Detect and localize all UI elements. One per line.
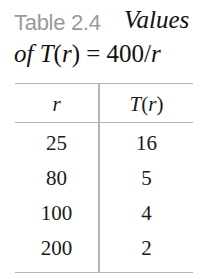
caption-var: r (151, 40, 161, 67)
table-cell-r: 100 (15, 201, 98, 226)
table-cell-r: 80 (15, 166, 98, 191)
caption-paren-close: ) (72, 40, 80, 67)
caption-func: T (40, 40, 54, 67)
table-cell-T: 16 (100, 131, 193, 156)
table-number-label: Table 2.4 (14, 10, 101, 36)
header-paren-close: ) (156, 92, 163, 116)
table-cell-r: 200 (15, 236, 98, 261)
table-cell-T: 2 (100, 236, 193, 261)
caption-of: of (14, 40, 40, 67)
caption-equation: = 400/ (80, 40, 151, 67)
table-top-rule (15, 83, 193, 84)
table-cell-T: 5 (100, 166, 193, 191)
caption-paren-open: ( (54, 40, 62, 67)
table-bottom-rule (15, 272, 193, 273)
table-header-rule (15, 122, 193, 123)
caption-arg: r (62, 40, 72, 67)
header-T: T (130, 92, 142, 116)
table-cell-T: 4 (100, 201, 193, 226)
table-cell-r: 25 (15, 131, 98, 156)
caption-line-2: of T(r) = 400/r (14, 40, 161, 68)
header-T-of-r: T(r) (100, 92, 193, 117)
header-r: r (15, 92, 98, 117)
caption-title-values: Values (124, 6, 189, 34)
